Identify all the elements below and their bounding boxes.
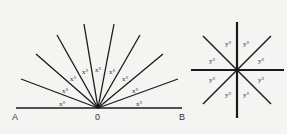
angle-label: x° (95, 66, 102, 74)
angle-label: x° (59, 100, 66, 108)
angle-label: x° (70, 75, 77, 83)
point-label-O: 0 (95, 112, 100, 122)
angle-label: x° (62, 87, 69, 95)
angle-label: x° (109, 68, 116, 76)
angle-label: y° (209, 76, 216, 84)
angle-label: x° (122, 75, 129, 83)
angle-label: y° (243, 40, 250, 48)
ray-2 (36, 54, 98, 108)
angle-label: y° (258, 76, 265, 84)
ray-7 (98, 54, 163, 108)
angle-label: x° (82, 68, 89, 76)
left-angle-labels: x° x° x° x° x° x° x° x° x° (59, 66, 143, 108)
diagram-canvas: x° x° x° x° x° x° x° x° x° A 0 B y° y° y… (0, 0, 287, 134)
center-point (235, 68, 239, 72)
angle-label: x° (132, 87, 139, 95)
point-label-B: B (179, 112, 185, 122)
angle-label: y° (258, 57, 265, 65)
point-label-A: A (12, 112, 18, 122)
angle-label: y° (225, 91, 232, 99)
angle-label: y° (225, 40, 232, 48)
angle-label: y° (243, 91, 250, 99)
right-star-figure (191, 22, 284, 118)
angle-label: y° (209, 57, 216, 65)
angle-label: x° (136, 100, 143, 108)
